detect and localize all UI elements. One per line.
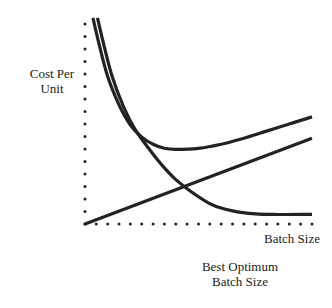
- x-axis-dot: [254, 223, 257, 226]
- x-axis-dot: [220, 223, 223, 226]
- total-cost-line: [93, 18, 312, 149]
- y-axis-dot: [84, 135, 87, 138]
- y-axis-dot: [84, 173, 87, 176]
- x-axis-dot: [140, 223, 143, 226]
- y-axis-dot: [84, 110, 87, 113]
- x-axis-dot: [118, 223, 121, 226]
- x-axis-dot: [231, 223, 234, 226]
- x-axis-dot: [129, 223, 132, 226]
- y-axis-dot: [84, 35, 87, 38]
- x-axis-label: Batch Size: [240, 231, 320, 246]
- x-axis-dot: [197, 223, 200, 226]
- x-axis-dot: [163, 223, 166, 226]
- y-axis-dot: [84, 85, 87, 88]
- y-axis-dot: [84, 185, 87, 188]
- x-axis-dot: [208, 223, 211, 226]
- x-axis-dot: [299, 223, 302, 226]
- x-axis-dot: [288, 223, 291, 226]
- y-axis-dot: [84, 160, 87, 163]
- x-axis-dot: [311, 223, 314, 226]
- x-axis-dot: [106, 223, 109, 226]
- x-axis-dot: [95, 223, 98, 226]
- y-axis-dot: [84, 123, 87, 126]
- x-axis-dot: [186, 223, 189, 226]
- y-axis-dot: [84, 98, 87, 101]
- x-axis-dot: [265, 223, 268, 226]
- y-axis-dot: [84, 148, 87, 151]
- x-axis-dot: [242, 223, 245, 226]
- x-axis-dot: [152, 223, 155, 226]
- y-axis-dot: [84, 23, 87, 26]
- optimum-annotation: Best Optimum Batch Size: [190, 259, 290, 289]
- setup-cost-line: [97, 18, 312, 215]
- y-axis-dot: [84, 48, 87, 51]
- y-axis-dot: [84, 60, 87, 63]
- x-axis-dot: [174, 223, 177, 226]
- y-axis-dot: [84, 198, 87, 201]
- carrying-cost-line: [85, 138, 312, 224]
- x-axis-dot: [276, 223, 279, 226]
- y-axis-dot: [84, 73, 87, 76]
- series-group: [85, 18, 312, 224]
- y-axis-dot: [84, 210, 87, 213]
- y-axis-label: Cost Per Unit: [22, 66, 82, 96]
